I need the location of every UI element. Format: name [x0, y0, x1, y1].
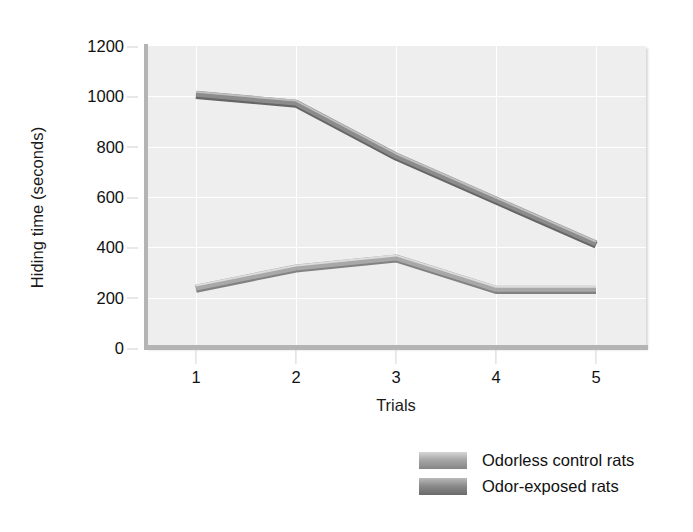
y-axis-tick-label: 600 [62, 188, 124, 207]
x-axis-tick: 1 [191, 348, 200, 387]
y-axis-tick-label: 800 [62, 137, 124, 156]
x-axis-tick-label: 1 [191, 368, 200, 387]
series-line-1 [196, 256, 596, 291]
x-axis-spine [144, 345, 648, 350]
x-axis-tick-mark [496, 348, 497, 364]
x-axis-title: Trials [146, 396, 646, 415]
x-axis-tick-mark [196, 348, 197, 364]
legend-item[interactable]: Odor-exposed rats [419, 473, 634, 499]
x-axis-tick: 4 [491, 348, 500, 387]
x-axis-tick-mark [296, 348, 297, 364]
y-axis-tick-mark [127, 298, 138, 299]
series-line-2 [196, 92, 596, 245]
x-axis-tick-labels: 12345 [146, 348, 646, 394]
x-axis-tick-label: 4 [491, 368, 500, 387]
y-axis-tick-label: 1200 [62, 37, 124, 56]
x-axis-tick: 3 [391, 348, 400, 387]
y-axis-title: Hiding time (seconds) [28, 78, 47, 338]
series-line-shadow [196, 95, 596, 245]
x-axis-tick-label: 3 [391, 368, 400, 387]
plot-area [146, 46, 646, 348]
x-axis-tick-label: 5 [591, 368, 600, 387]
y-axis-tick-label: 400 [62, 238, 124, 257]
x-axis-tick: 2 [291, 348, 300, 387]
legend-item-label: Odor-exposed rats [482, 477, 619, 496]
x-axis-tick-mark [596, 348, 597, 364]
legend-item-label: Odorless control rats [482, 451, 634, 470]
y-axis-tick-label: 0 [62, 339, 124, 358]
x-axis-tick: 5 [591, 348, 600, 387]
y-axis-tick-labels: 020040060080010001200 [62, 0, 124, 532]
x-axis-tick-mark [396, 348, 397, 364]
y-axis-tick-label: 1000 [62, 87, 124, 106]
legend-item[interactable]: Odorless control rats [419, 447, 634, 473]
x-axis-tick-label: 2 [291, 368, 300, 387]
y-axis-tick-mark [127, 247, 138, 248]
y-axis-tick-mark [127, 96, 138, 97]
data-lines [146, 46, 646, 348]
y-axis-tick-mark [127, 197, 138, 198]
y-axis-spine [144, 44, 148, 350]
chart-legend: Odorless control ratsOdor-exposed rats [419, 447, 634, 499]
legend-color-swatch [419, 452, 467, 469]
y-axis-tick-mark [127, 348, 138, 349]
y-axis-tick-label: 200 [62, 288, 124, 307]
chart-figure: Hiding time (seconds) 020040060080010001… [0, 0, 693, 532]
y-axis-tick-mark [127, 46, 138, 47]
y-axis-tick-mark [127, 147, 138, 148]
legend-color-swatch [419, 478, 467, 495]
